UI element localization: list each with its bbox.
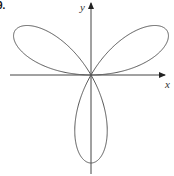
y-axis-label: y (80, 2, 85, 13)
rose-curve-plot (0, 0, 174, 176)
x-axis-label: x (165, 79, 170, 90)
